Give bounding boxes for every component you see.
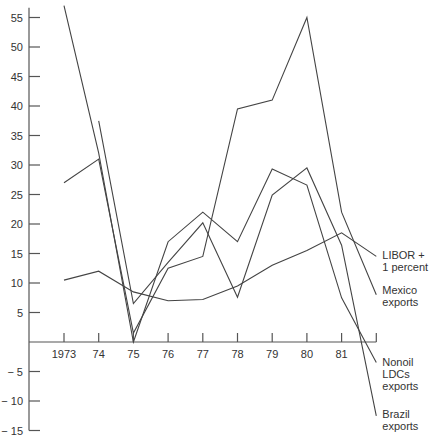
x-tick-label: 78 [231,348,243,360]
y-tick-label: − 5 [7,366,23,378]
series-line-libor-1-percent [64,233,376,301]
x-tick-label: 76 [162,348,174,360]
x-tick-label: 81 [335,348,347,360]
series-label: NonoilLDCsexports [382,356,419,392]
series-label-line: 1 percent [382,261,428,273]
y-tick-label: 25 [11,189,23,201]
y-tick-label: − 10 [1,395,23,407]
x-tick-label: 79 [266,348,278,360]
x-tick-label: 74 [93,348,105,360]
x-tick-label: 75 [127,348,139,360]
series-line-brazil-exports [99,121,377,416]
series-label-line: Brazil [382,408,410,420]
series-label-line: LIBOR + [382,249,425,261]
series-labels: LIBOR +1 percentMexicoexportsNonoilLDCse… [382,249,428,432]
series-label-line: exports [382,420,419,432]
y-tick-label: − 15 [1,425,23,437]
x-tick-label: 80 [301,348,313,360]
y-tick-label: 5 [17,307,23,319]
series-label: LIBOR +1 percent [382,249,428,273]
series-label: Brazilexports [382,408,419,432]
axes [29,8,376,431]
series-label-line: Nonoil [382,356,413,368]
series-lines [64,6,376,416]
y-tick-label: 50 [11,41,23,53]
line-chart: 555045403530252015105− 5− 10− 1519737475… [0,0,433,441]
y-tick-label: 45 [11,71,23,83]
y-tick-label: 30 [11,159,23,171]
x-tick-label: 77 [197,348,209,360]
y-tick-label: 15 [11,248,23,260]
y-tick-label: 10 [11,277,23,289]
y-tick-label: 20 [11,218,23,230]
y-tick-label: 35 [11,130,23,142]
series-label-line: Mexico [382,284,417,296]
series-label-line: LDCs [382,368,410,380]
series-label-line: exports [382,296,419,308]
x-tick-label: 1973 [52,348,76,360]
series-line-mexico-exports [64,18,376,334]
series-label: Mexicoexports [382,284,419,308]
series-label-line: exports [382,380,419,392]
y-tick-label: 40 [11,100,23,112]
y-tick-label: 55 [11,12,23,24]
